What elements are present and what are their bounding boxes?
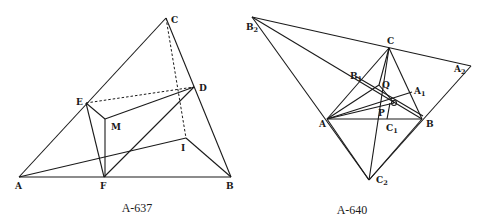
segment-ac — [19, 18, 166, 177]
geometry-figures: A B C D E F M I A-637 A B C Q — [0, 0, 482, 224]
figure-a637: A B C D E F M I A-637 — [14, 15, 234, 215]
segment-a-c2 — [327, 119, 369, 180]
label-d: D — [199, 83, 207, 93]
caption-a640: A-640 — [337, 203, 368, 217]
label-f: F — [100, 181, 107, 191]
label-b: B — [226, 181, 234, 191]
label-c2: C2 — [376, 175, 388, 187]
segment-b2-c2 — [252, 17, 369, 180]
segment-a-q — [327, 85, 379, 119]
label-i: I — [181, 143, 185, 153]
segment-b1-b-parallel — [357, 77, 423, 116]
caption-a637: A-637 — [122, 201, 153, 215]
label-c: C — [171, 15, 178, 25]
label-a: A — [318, 119, 327, 129]
segment-ef — [86, 103, 104, 177]
label-b1: B1 — [350, 71, 362, 83]
label-m: M — [111, 122, 121, 132]
segment-fd — [104, 87, 194, 177]
segment-ci-dashed — [166, 18, 186, 138]
label-c: C — [387, 36, 394, 46]
label-b: B — [426, 119, 434, 129]
segment-cb — [389, 48, 422, 119]
figure-a640: A B C Q P B1 A1 C1 A2 B2 C2 A-640 — [246, 17, 471, 217]
label-a2: A2 — [453, 64, 466, 76]
segment-p-c1 — [387, 103, 390, 119]
segment-cb — [166, 18, 231, 177]
label-a: A — [14, 181, 23, 191]
segment-b2-a2 — [252, 17, 471, 66]
segment-ib — [186, 138, 231, 177]
label-c1: C1 — [386, 123, 398, 135]
label-p: P — [378, 108, 385, 118]
label-q: Q — [382, 80, 390, 90]
label-a1: A1 — [413, 86, 426, 98]
label-e: E — [76, 97, 83, 107]
